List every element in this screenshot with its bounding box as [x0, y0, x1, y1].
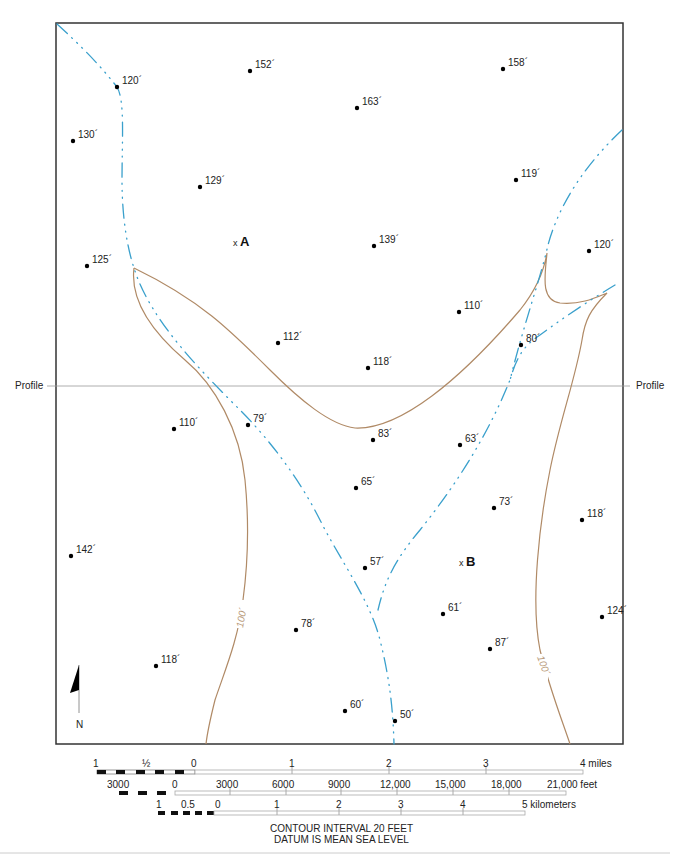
elevation-label: 87´: [495, 637, 509, 648]
scale-tick: 3: [398, 799, 404, 810]
scale-tick: 3: [483, 758, 489, 769]
scale-tick: 12,000: [380, 779, 411, 790]
scale-tick: 2: [336, 799, 342, 810]
elevation-label: 79´: [253, 413, 267, 424]
elevation-label: 124´: [607, 605, 627, 616]
point-dot: [458, 443, 462, 447]
location-a-mark: x: [233, 238, 238, 248]
location-b-mark: x: [459, 558, 464, 568]
point-dot: [600, 615, 604, 619]
point-dot: [354, 486, 358, 490]
elevation-label: 130´: [78, 129, 98, 140]
scale-tick: 4: [460, 799, 466, 810]
point-dot: [366, 366, 370, 370]
point-dot: [488, 647, 492, 651]
elevation-label: 119´: [521, 168, 540, 179]
elevation-label: 110´: [464, 300, 483, 311]
scale-tick: 18,000: [491, 779, 522, 790]
point-dot: [355, 106, 359, 110]
point-dot: [393, 719, 397, 723]
elevation-label: 83´: [378, 428, 392, 439]
point-dot: [580, 518, 584, 522]
elevation-label: 61´: [448, 602, 462, 613]
elevation-label: 80´: [526, 333, 540, 344]
scale-tick: 3000: [107, 779, 130, 790]
point-dot: [71, 139, 75, 143]
point-dot: [492, 506, 496, 510]
elevation-label: 50´: [400, 709, 414, 720]
scale-tick: 2: [386, 758, 392, 769]
scale-bar-miles: 1 ½ 0 1 2 3 4 miles: [93, 758, 612, 774]
topographic-map: Profile Profile 100´ 100´ 120´152´158´16…: [0, 0, 683, 859]
elevation-label: 120´: [594, 239, 614, 250]
scale-tick: 1: [156, 799, 162, 810]
scale-bar-feet: 3000 0 3000 6000 9000 12,000 15,000 18,0…: [107, 779, 597, 795]
scale-bar-kilometers: 1 0.5 0 1 2 3 4 5 kilometers: [156, 799, 576, 815]
scale-tick: 1: [93, 758, 99, 769]
elevation-label: 158´: [508, 57, 528, 68]
point-dot: [172, 427, 176, 431]
elevation-label: 78´: [301, 618, 315, 629]
point-dot: [294, 628, 298, 632]
elevation-label: 152´: [255, 59, 275, 70]
point-dot: [519, 343, 523, 347]
point-dot: [85, 264, 89, 268]
scale-end-label: 4 miles: [580, 758, 612, 769]
contour-interval-note: CONTOUR INTERVAL 20 FEET: [0, 824, 683, 834]
elevation-label: 112´: [283, 331, 302, 342]
point-dot: [587, 249, 591, 253]
elevation-label: 73´: [499, 496, 513, 507]
scale-end-label: 5 kilometers: [522, 799, 576, 810]
elevation-label: 57´: [370, 556, 384, 567]
scale-tick: 0.5: [181, 799, 195, 810]
point-dot: [501, 67, 505, 71]
elevation-label: 120´: [122, 75, 142, 86]
elevation-label: 60´: [350, 699, 364, 710]
scale-tick: 6000: [272, 779, 295, 790]
location-a-label: A: [240, 234, 250, 249]
point-dot: [363, 566, 367, 570]
point-dot: [371, 438, 375, 442]
profile-label-left: Profile: [15, 380, 44, 391]
elevation-label: 163´: [362, 96, 382, 107]
scale-tick: 0: [191, 758, 197, 769]
elevation-label: 118´: [373, 356, 392, 367]
scale-tick: ½: [142, 758, 151, 769]
point-dot: [276, 341, 280, 345]
elevation-label: 118´: [161, 654, 180, 665]
elevation-label: 65´: [361, 476, 375, 487]
elevation-label: 110´: [179, 417, 198, 428]
point-dot: [69, 554, 73, 558]
scale-tick: 1: [274, 799, 280, 810]
point-dot: [514, 178, 518, 182]
scale-tick: 0: [172, 779, 178, 790]
north-label: N: [76, 719, 83, 730]
point-dot: [198, 185, 202, 189]
location-b-label: B: [466, 554, 475, 569]
point-dot: [115, 85, 119, 89]
elevation-label: 63´: [465, 433, 479, 444]
scale-tick: 15,000: [435, 779, 466, 790]
profile-label-right: Profile: [636, 380, 665, 391]
point-dot: [372, 244, 376, 248]
elevation-label: 118´: [587, 508, 606, 519]
scale-end-label: 21,000 feet: [547, 779, 597, 790]
point-dot: [343, 709, 347, 713]
point-dot: [441, 612, 445, 616]
scale-tick: 0: [215, 799, 221, 810]
point-dot: [457, 310, 461, 314]
scale-tick: 9000: [328, 779, 351, 790]
scale-tick: 1: [289, 758, 295, 769]
elevation-label: 142´: [76, 544, 96, 555]
scale-tick: 3000: [216, 779, 239, 790]
elevation-label: 125´: [92, 254, 112, 265]
point-dot: [248, 69, 252, 73]
datum-note: DATUM IS MEAN SEA LEVEL: [0, 835, 683, 845]
elevation-label: 129´: [205, 175, 225, 186]
point-dot: [246, 423, 250, 427]
elevation-label: 139´: [379, 234, 399, 245]
point-dot: [154, 664, 158, 668]
